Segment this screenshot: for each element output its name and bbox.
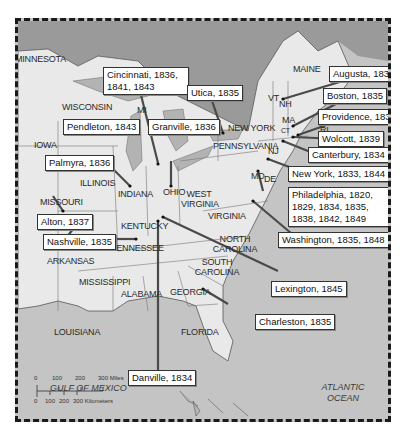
state-label-north-carolina: NORTH CAROLINA: [211, 234, 259, 254]
callout-pendleton: Pendleton, 1843: [63, 119, 140, 135]
scale-km-200: 200: [59, 398, 69, 404]
state-label-wisconsin: WISCONSIN: [62, 102, 112, 112]
scale-miles-100: 100: [52, 375, 62, 381]
state-label-south-carolina: SOUTH CAROLINA: [193, 257, 241, 277]
callout-new-york: New York, 1833, 1844: [288, 166, 389, 182]
state-label-maine: MAINE: [293, 64, 321, 74]
state-label-michigan: MI: [137, 105, 147, 115]
callout-lexington: Lexington, 1845: [271, 281, 347, 297]
callout-nashville: Nashville, 1835: [43, 234, 116, 250]
state-label-delaware: DE: [264, 174, 276, 184]
state-label-florida: FLORIDA: [181, 327, 219, 337]
callout-palmyra: Palmyra, 1836: [45, 155, 114, 171]
scale-miles-300: 300 Miles: [98, 375, 124, 381]
state-label-new-hampshire: NH: [279, 99, 292, 109]
state-label-louisiana: LOUISIANA: [54, 327, 100, 337]
water-label-gulf-of-mexico: GULF OF MEXICO: [50, 383, 127, 394]
state-label-west-virginia: WEST VIRGINIA: [181, 189, 217, 209]
callout-philadelphia: Philadelphia, 1820, 1829, 1834, 1835, 18…: [288, 187, 391, 227]
water-label-atlantic-ocean: ATLANTIC OCEAN: [318, 382, 368, 404]
scale-miles-0: 0: [34, 375, 37, 381]
scale-km-300: 300 Kilometers: [73, 398, 113, 404]
callout-augusta: Augusta, 1834: [329, 66, 391, 82]
state-label-virginia: VIRGINIA: [208, 211, 246, 221]
state-label-illinois: ILLINOIS: [80, 178, 115, 188]
callout-granville: Granville, 1836: [148, 119, 220, 135]
state-label-georgia: GEORGIA: [170, 287, 211, 297]
state-label-minnesota: MINNESOTA: [15, 54, 66, 64]
state-label-connecticut: CT: [281, 126, 290, 136]
state-label-vermont: VT: [268, 93, 279, 103]
scale-km-100: 100: [45, 398, 55, 404]
scale-miles-200: 200: [75, 375, 85, 381]
callout-wolcott: Wolcott, 1839: [318, 131, 384, 147]
state-label-iowa: IOWA: [34, 140, 57, 150]
state-label-missouri: MISSOURI: [40, 197, 83, 207]
callout-danville: Danville, 1834: [128, 370, 196, 386]
callout-cincinnati: Cincinnati, 1836, 1841, 1843: [103, 67, 189, 95]
state-label-new-york: NEW YORK: [228, 123, 275, 133]
state-label-indiana: INDIANA: [118, 189, 153, 199]
callout-utica: Utica, 1835: [187, 85, 243, 101]
scale-km-0: 0: [34, 398, 37, 404]
callout-boston: Boston, 1835: [323, 88, 387, 104]
callout-washington: Washington, 1835, 1848: [278, 232, 389, 248]
callout-charleston: Charleston, 1835: [255, 314, 335, 330]
callout-canterbury: Canterbury, 1834: [308, 147, 389, 163]
state-label-mississippi: MISSISSIPPI: [79, 277, 130, 287]
state-label-massachusetts: MA: [282, 115, 295, 125]
state-label-new-jersey: NJ: [268, 146, 279, 156]
map-frame: MINNESOTA WISCONSIN MI IOWA ILLINOIS IND…: [15, 18, 391, 422]
state-label-kentucky: KENTUCKY: [121, 221, 168, 231]
callout-providence: Providence, 1831: [318, 109, 391, 125]
state-label-tennessee: TENNESSEE: [111, 243, 164, 253]
state-label-arkansas: ARKANSAS: [47, 256, 94, 266]
callout-alton: Alton, 1837: [37, 214, 93, 230]
state-label-alabama: ALABAMA: [121, 289, 162, 299]
state-label-maryland: MD: [251, 171, 265, 181]
